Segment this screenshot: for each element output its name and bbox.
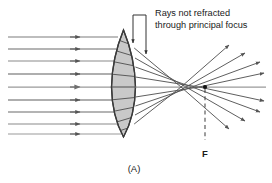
focal-point-dot	[203, 85, 207, 89]
panel-caption: (A)	[128, 163, 141, 174]
focal-point-label: F	[202, 148, 208, 159]
annotation-line-2: through principal focus	[155, 20, 248, 30]
spherical-aberration-diagram: F Rays not refracted through principal f…	[0, 0, 272, 183]
annotation-line-1: Rays not refracted	[155, 8, 230, 18]
